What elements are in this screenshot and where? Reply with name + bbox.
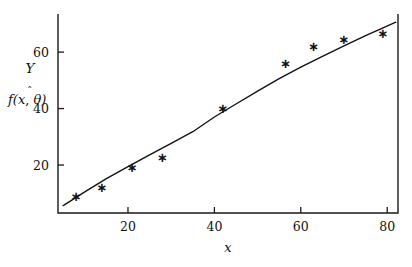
data-point-marker: ∗ xyxy=(377,26,388,41)
y-tick-label: 20 xyxy=(33,158,49,173)
data-point-marker: ∗ xyxy=(71,189,82,204)
y-axis-label-fxtheta: f(x, θ̂) xyxy=(8,92,46,107)
fhat-close: ) xyxy=(41,92,46,107)
chart-container: 204060 20406080 ∗∗∗∗∗∗∗∗∗ Y x f(x, θ̂) xyxy=(0,0,412,267)
data-point-marker: ∗ xyxy=(339,32,350,47)
fhat-theta: θ̂ xyxy=(34,92,42,107)
data-point-marker: ∗ xyxy=(97,180,108,195)
x-axis-label: x xyxy=(224,240,232,255)
data-point-marker: ∗ xyxy=(157,150,168,165)
data-point-marker: ∗ xyxy=(280,56,291,71)
y-tick-label: 60 xyxy=(33,45,49,60)
scatter-plot-with-fitted-curve: 204060 20406080 ∗∗∗∗∗∗∗∗∗ Y x xyxy=(0,0,412,267)
x-tick-label: 20 xyxy=(120,219,136,234)
data-point-marker: ∗ xyxy=(127,160,138,175)
fhat-comma: , xyxy=(25,92,33,107)
x-tick-label: 80 xyxy=(379,219,395,234)
x-tick-label: 40 xyxy=(206,219,222,234)
y-axis-label-Y: Y xyxy=(26,60,36,76)
data-point-marker: ∗ xyxy=(308,39,319,54)
x-tick-label: 60 xyxy=(293,219,309,234)
data-point-marker: ∗ xyxy=(218,101,229,116)
